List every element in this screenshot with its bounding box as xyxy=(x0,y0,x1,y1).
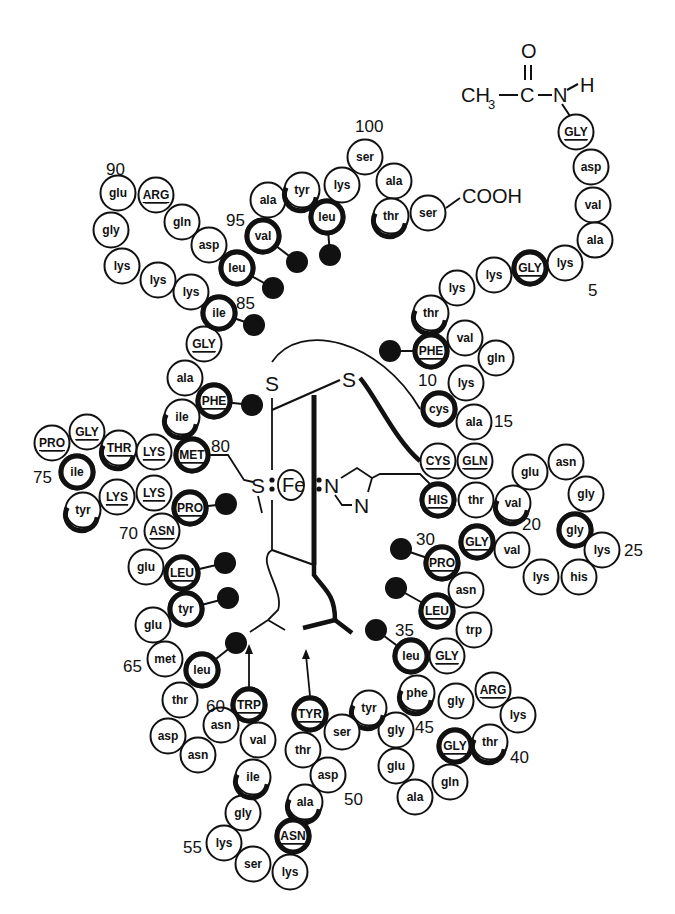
residue-number: 50 xyxy=(344,790,363,809)
residue-55: lys xyxy=(207,826,242,861)
cytochrome-c-structure-diagram: CH 3 C O N H COOH xyxy=(0,0,675,914)
residue-label: asn xyxy=(188,748,209,762)
residue-17: CYS xyxy=(421,444,456,479)
residue-40: thr xyxy=(472,725,507,763)
propionate-chain xyxy=(268,620,285,630)
residue-94: leu xyxy=(220,251,255,286)
residue-label: gly xyxy=(387,723,405,737)
porphyrin-edge xyxy=(272,380,340,410)
residue-99: lys xyxy=(325,168,360,203)
residue-label: ile xyxy=(246,770,260,784)
residue-number: 65 xyxy=(123,657,142,676)
residue-label: GLY xyxy=(435,649,459,663)
c-terminus: COOH xyxy=(446,185,522,208)
residue-61: asn xyxy=(181,738,216,773)
residue-label: lys xyxy=(458,376,475,390)
residue-label: lys xyxy=(183,285,200,299)
residue-label: GLY xyxy=(75,425,99,439)
residue-label: THR xyxy=(107,441,132,455)
residue-label: HIS xyxy=(428,493,448,507)
residue-number: 40 xyxy=(510,748,529,767)
residue-label: phe xyxy=(406,686,428,700)
residue-label: lys xyxy=(282,865,299,879)
residue-label: thr xyxy=(295,743,311,757)
residue-label: GLY xyxy=(443,739,467,753)
residue-56: gly xyxy=(226,796,261,831)
nitrogen-label: N xyxy=(553,84,567,106)
residue-label: glu xyxy=(144,618,162,632)
residue-102: thr xyxy=(373,199,408,237)
residue-label: ser xyxy=(333,725,351,739)
residue-label: tyr xyxy=(75,503,91,517)
residue-label: ile xyxy=(175,410,189,424)
residue-label: GLY xyxy=(564,125,588,139)
residue-label: glu xyxy=(109,186,127,200)
residue-67: tyr xyxy=(169,592,204,627)
residue-label: glu xyxy=(521,465,539,479)
residue-label: asp xyxy=(158,729,179,743)
residue-3: val xyxy=(576,188,611,223)
hydrogen-label: H xyxy=(580,74,594,96)
residue-101: ala xyxy=(377,164,412,199)
residue-96: ala xyxy=(251,183,286,218)
residue-number: 45 xyxy=(415,718,434,737)
propionate-chain-thick xyxy=(335,620,352,633)
residue-label: ala xyxy=(260,193,277,207)
residue-35: leu xyxy=(394,639,429,674)
residue-31: asn xyxy=(449,573,484,608)
residue-68: LEU xyxy=(165,556,200,591)
residue-number: 60 xyxy=(206,697,225,716)
residue-47: ser xyxy=(325,715,360,750)
residue-label: thr xyxy=(172,693,188,707)
residue-number: 15 xyxy=(494,412,513,431)
residue-5: lys xyxy=(548,246,583,281)
bond-dot xyxy=(269,477,274,482)
arrow-head-icon xyxy=(302,649,310,659)
bond-dot xyxy=(269,486,274,491)
residue-label: asp xyxy=(581,160,602,174)
propionate-chain xyxy=(250,620,268,632)
residue-19: thr xyxy=(459,483,494,518)
residue-label: tyr xyxy=(361,701,377,715)
residue-label: ile xyxy=(70,465,84,479)
propionate-chain-thick xyxy=(314,565,335,620)
residue-11: val xyxy=(448,321,483,356)
residue-42: gln xyxy=(433,765,468,800)
residue-label: lys xyxy=(533,570,550,584)
residue-label: asn xyxy=(556,455,577,469)
residue-label: gly xyxy=(234,806,252,820)
residue-label: ala xyxy=(587,233,604,247)
residue-84: GLY xyxy=(187,327,222,362)
residue-15: ala xyxy=(457,405,492,440)
side-chain-dot-icon xyxy=(241,394,263,416)
propionate-chain-thick xyxy=(303,620,335,628)
residue-2: asp xyxy=(574,150,609,185)
residue-label: PRO xyxy=(177,501,203,515)
residue-29: GLY xyxy=(460,525,495,560)
sulfur-label-top-left: S xyxy=(265,372,279,395)
residue-16: GLN xyxy=(458,444,493,479)
side-chain-dot-icon xyxy=(390,538,412,560)
residue-30: PRO xyxy=(425,546,460,581)
residue-number: 90 xyxy=(106,160,125,179)
residue-39: lys xyxy=(501,698,536,733)
residue-label: gly xyxy=(102,223,120,237)
residue-label: lys xyxy=(449,281,466,295)
residue-label: val xyxy=(255,229,272,243)
met80-ligand-bond xyxy=(210,455,253,482)
residue-label: val xyxy=(457,331,474,345)
residue-label: ala xyxy=(177,371,194,385)
residue-label: ala xyxy=(297,795,314,809)
residue-label: GLN xyxy=(462,454,487,468)
residue-label: met xyxy=(154,652,175,666)
residue-label: ASN xyxy=(149,524,174,538)
residue-48: TYR xyxy=(293,697,328,732)
residue-label: lys xyxy=(216,836,233,850)
residue-label: ile xyxy=(212,306,226,320)
n-terminal-acetyl-group: CH 3 C O N H xyxy=(461,40,594,116)
residue-83: ala xyxy=(168,361,203,396)
residue-label: CYS xyxy=(426,454,451,468)
residue-89: gly xyxy=(94,213,129,248)
residue-34: GLY xyxy=(430,639,465,674)
iron-label: Fe xyxy=(282,474,305,496)
